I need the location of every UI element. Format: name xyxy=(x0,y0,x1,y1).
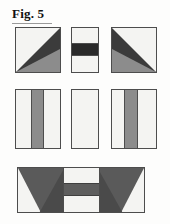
seam-line-left xyxy=(63,168,64,212)
band-dark xyxy=(72,43,98,57)
caption-underline xyxy=(12,23,52,24)
figure-root: Fig. 5 xyxy=(0,0,170,224)
unit-goose-left xyxy=(15,27,61,73)
unit-strip-mid xyxy=(71,89,99,149)
unit-goose-right xyxy=(111,27,157,73)
unit-strip-right xyxy=(111,89,157,149)
unit-center-strip xyxy=(71,27,99,73)
unit-strip-left xyxy=(15,89,61,149)
figure-caption: Fig. 5 xyxy=(12,6,44,21)
seam-line-right xyxy=(99,168,100,212)
stripe-gray xyxy=(31,90,44,148)
assembled-center xyxy=(63,168,98,212)
stripe-gray xyxy=(124,90,137,148)
unit-assembled-panel xyxy=(17,167,145,213)
band-dark xyxy=(63,183,98,196)
